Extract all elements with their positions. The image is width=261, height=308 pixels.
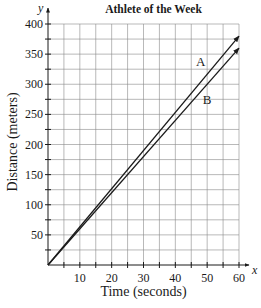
distance-time-chart: Athlete of the Week xy102030405060501001… bbox=[0, 0, 261, 308]
y-tick-label: 150 bbox=[25, 168, 43, 182]
x-tick-label: 10 bbox=[74, 271, 86, 285]
series-label-b: B bbox=[203, 92, 212, 107]
x-tick-label: 60 bbox=[233, 271, 245, 285]
y-tick-label: 250 bbox=[25, 107, 43, 121]
series-label-a: A bbox=[196, 54, 206, 69]
y-tick-label: 400 bbox=[25, 17, 43, 31]
x-axis-symbol: x bbox=[251, 263, 258, 277]
y-tick-label: 200 bbox=[25, 138, 43, 152]
x-tick-label: 50 bbox=[201, 271, 213, 285]
y-axis-symbol: y bbox=[37, 1, 44, 15]
y-tick-label: 50 bbox=[31, 228, 43, 242]
y-tick-label: 100 bbox=[25, 198, 43, 212]
x-tick-label: 20 bbox=[106, 271, 118, 285]
x-tick-label: 30 bbox=[138, 271, 150, 285]
y-tick-label: 350 bbox=[25, 47, 43, 61]
y-tick-label: 300 bbox=[25, 77, 43, 91]
x-tick-label: 40 bbox=[169, 271, 181, 285]
plot-area: xy10203040506050100150200250300350400AB bbox=[0, 0, 261, 308]
x-axis-label: Time (seconds) bbox=[48, 284, 239, 300]
y-axis-label: Distance (meters) bbox=[5, 77, 21, 207]
